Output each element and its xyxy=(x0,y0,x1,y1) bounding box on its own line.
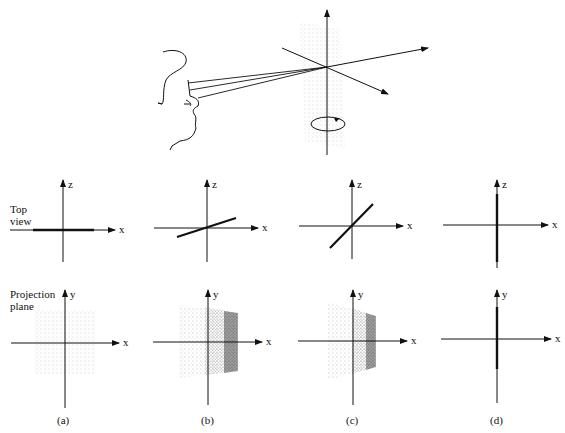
figure-canvas xyxy=(0,0,565,433)
axis-label-y: y xyxy=(358,288,364,300)
row-label-projection-plane: Projection plane xyxy=(10,288,55,312)
caption-c: (c) xyxy=(346,414,358,426)
axis-label-z: z xyxy=(68,178,73,190)
axis-label-z: z xyxy=(502,178,507,190)
panel-c-projection xyxy=(298,290,407,405)
axis-label-y: y xyxy=(213,288,219,300)
panel-b-top-view xyxy=(154,180,258,262)
axis-label-x: x xyxy=(555,332,561,344)
panel-d-projection xyxy=(441,290,551,403)
axis-label-x: x xyxy=(411,334,417,346)
axis-label-y: y xyxy=(502,288,508,300)
axis-label-z: z xyxy=(212,178,217,190)
axis-label-y: y xyxy=(70,288,76,300)
caption-d: (d) xyxy=(490,414,503,426)
axis-label-x: x xyxy=(552,218,558,230)
axis-label-x: x xyxy=(407,219,413,231)
axis-label-z: z xyxy=(357,178,362,190)
axis-label-x: x xyxy=(119,223,125,235)
observer-illustration xyxy=(158,10,428,155)
head-profile-icon xyxy=(158,50,186,104)
panel-c-top-view xyxy=(299,180,403,259)
panel-b-projection xyxy=(153,290,262,405)
caption-b: (b) xyxy=(201,414,214,426)
axis-label-x: x xyxy=(123,336,129,348)
panel-d-top-view xyxy=(443,180,548,268)
row-label-top-view: Top view xyxy=(10,203,31,227)
caption-a: (a) xyxy=(57,414,69,426)
axis-label-x: x xyxy=(266,335,272,347)
axis-label-x: x xyxy=(262,221,268,233)
